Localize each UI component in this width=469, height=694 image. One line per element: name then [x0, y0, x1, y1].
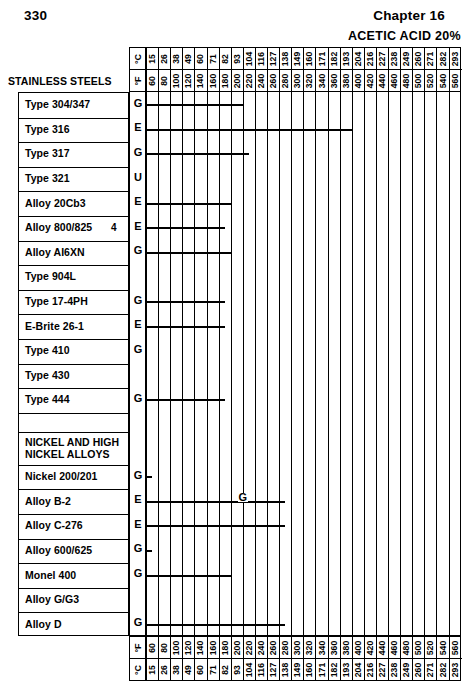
axis-tick-label: 420 [365, 640, 375, 654]
grid-line [194, 92, 195, 635]
alloy-label: Alloy G/G3 [25, 593, 79, 605]
footnote-marker: 4 [111, 222, 117, 233]
row-separator [19, 364, 130, 365]
row-separator [19, 563, 130, 564]
alloy-label: Type 904L [25, 270, 76, 282]
top-scale-celsius-row: °C 1526384960718293104116127138149160171… [130, 48, 462, 70]
grade-letter: G [130, 97, 146, 109]
grade-letter: E [130, 220, 146, 232]
corrosion-chart: °C 1526384960718293104116127138149160171… [8, 47, 461, 681]
rating-bar [146, 550, 152, 552]
alloy-label: Type 317 [25, 147, 70, 159]
axis-tick-label: 300 [292, 74, 302, 88]
axis-tick-label: 420 [365, 74, 375, 88]
grid-line [376, 92, 377, 635]
grade-letter-mid: G [238, 493, 249, 502]
alloy-name-column: Type 304/347Type 316Type 317Type 321Allo… [18, 92, 129, 636]
bottom-scale-celsius-row: °C 1526384960718293104116127138149160171… [130, 659, 462, 681]
axis-tick-label: 60 [147, 643, 157, 653]
axis-tick-label: 520 [425, 640, 435, 654]
axis-tick-label: 400 [353, 74, 363, 88]
axis-tick-label: 127 [268, 51, 278, 65]
axis-tick-label: 380 [341, 640, 351, 654]
grid-line [255, 92, 256, 635]
axis-tick-label: 60 [195, 665, 205, 675]
axis-tick-label: 249 [401, 663, 411, 677]
axis-tick-label: 204 [353, 663, 363, 677]
axis-tick-label: 160 [208, 640, 218, 654]
row-separator [19, 588, 130, 589]
row-separator [19, 432, 130, 433]
axis-tick-label: 38 [171, 54, 181, 64]
axis-tick-label: 160 [208, 74, 218, 88]
alloy-label: Type 444 [25, 393, 70, 405]
bottom-scale: °F 6080100120140160180200220240260280300… [129, 636, 461, 681]
axis-tick-label: 271 [425, 663, 435, 677]
row-separator [19, 339, 130, 340]
axis-tick-label: 220 [244, 74, 254, 88]
grade-letter: E [130, 195, 146, 207]
row-separator [19, 191, 130, 192]
grid-line [158, 92, 159, 635]
axis-tick-label: 280 [280, 74, 290, 88]
top-scale: °C 1526384960718293104116127138149160171… [129, 47, 461, 92]
axis-tick-label: 80 [159, 643, 169, 653]
axis-tick-label: 280 [280, 640, 290, 654]
celsius-tick-labels-bottom: 1526384960718293104116127138149160171182… [146, 659, 462, 681]
grid-line [146, 92, 147, 635]
group-header-stainless: STAINLESS STEELS [8, 69, 129, 92]
unit-label-celsius-text: °C [133, 53, 143, 63]
axis-tick-label: 104 [244, 51, 254, 65]
axis-tick-label: 93 [232, 665, 242, 675]
alloy-label: Type 316 [25, 123, 70, 135]
axis-tick-label: 220 [244, 640, 254, 654]
axis-tick-label: 260 [268, 74, 278, 88]
grade-letter: G [130, 469, 146, 481]
axis-tick-label: 193 [341, 51, 351, 65]
grid-line [449, 92, 450, 635]
grid-line [352, 92, 353, 635]
grade-letter: G [130, 294, 146, 306]
unit-label-fahrenheit-bottom: °F [130, 637, 146, 658]
alloy-label: Nickel 200/201 [25, 470, 98, 482]
axis-tick-label: 440 [377, 74, 387, 88]
axis-tick-label: 249 [401, 51, 411, 65]
row-separator [19, 514, 130, 515]
axis-tick-label: 71 [208, 54, 218, 64]
rating-bar [146, 252, 231, 254]
row-separator [19, 539, 130, 540]
axis-tick-label: 320 [304, 640, 314, 654]
axis-tick-label: 340 [317, 640, 327, 654]
axis-tick-label: 26 [159, 54, 169, 64]
axis-tick-label: 71 [208, 665, 218, 675]
axis-tick-label: 15 [147, 54, 157, 64]
row-separator [19, 489, 130, 490]
axis-tick-label: 320 [304, 74, 314, 88]
grid-line [340, 92, 341, 635]
alloy-label: Type 304/347 [25, 98, 90, 110]
alloy-label: Monel 400 [25, 569, 76, 581]
grid-line [243, 92, 244, 635]
grid-line [400, 92, 401, 635]
axis-tick-label: 160 [304, 663, 314, 677]
chapter-title: Chapter 16 [373, 8, 445, 23]
rating-bar [146, 129, 352, 131]
axis-tick-label: 160 [304, 51, 314, 65]
grid-line [170, 92, 171, 635]
row-separator [19, 413, 130, 414]
grid-line [267, 92, 268, 635]
grade-letter: E [130, 121, 146, 133]
rating-bar [146, 476, 152, 478]
alloy-label: Alloy AI6XN [25, 246, 85, 258]
axis-tick-label: 60 [195, 54, 205, 64]
axis-tick-label: 360 [329, 74, 339, 88]
grid-line [303, 92, 304, 635]
rating-bar [146, 326, 225, 328]
axis-tick-label: 340 [317, 74, 327, 88]
axis-tick-label: 182 [329, 51, 339, 65]
axis-tick-label: 260 [413, 663, 423, 677]
alloy-label: Type 430 [25, 369, 70, 381]
rating-bar [146, 104, 243, 106]
axis-tick-label: 171 [317, 51, 327, 65]
plot-grid: G [146, 92, 460, 635]
